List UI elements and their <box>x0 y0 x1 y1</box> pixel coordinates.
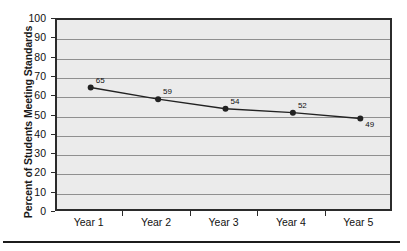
x-axis-tick-label: Year 1 <box>55 216 123 228</box>
plot-area: 6559545249 <box>55 18 392 211</box>
y-axis-tick-label: 0 <box>8 206 46 216</box>
x-axis-tick-label: Year 3 <box>190 216 258 228</box>
y-axis-tick-label: 40 <box>8 129 46 139</box>
data-point-value-label: 49 <box>365 121 374 129</box>
y-axis-tick-mark <box>51 211 55 212</box>
data-point-value-label: 52 <box>298 102 307 110</box>
chart-figure: Percent of Students Meeting Standards 10… <box>0 0 407 251</box>
y-axis-tick-label: 10 <box>8 187 46 197</box>
series-line-chart <box>57 20 394 213</box>
y-axis-tick-label: 70 <box>8 71 46 81</box>
y-axis-tick-label: 60 <box>8 90 46 100</box>
x-axis-tick-label: Year 4 <box>257 216 325 228</box>
data-point-marker <box>290 110 296 116</box>
y-axis-tick-label: 80 <box>8 52 46 62</box>
data-point-value-label: 59 <box>163 88 172 96</box>
y-axis-tick-label: 30 <box>8 148 46 158</box>
y-axis-tick-label: 100 <box>8 13 46 23</box>
data-point-value-label: 65 <box>96 77 105 85</box>
y-axis-tick-label: 50 <box>8 110 46 120</box>
plot-inner: 6559545249 <box>57 20 390 209</box>
data-point-value-label: 54 <box>231 98 240 106</box>
series-line <box>91 88 361 119</box>
data-point-marker <box>155 96 161 102</box>
data-point-marker <box>88 85 94 91</box>
bottom-divider-rule <box>3 241 400 243</box>
y-axis-tick-label: 20 <box>8 167 46 177</box>
data-point-marker <box>357 115 363 121</box>
x-axis-tick-label: Year 2 <box>122 216 190 228</box>
x-axis-tick-label: Year 5 <box>324 216 392 228</box>
y-axis-tick-label: 90 <box>8 32 46 42</box>
data-point-marker <box>223 106 229 112</box>
